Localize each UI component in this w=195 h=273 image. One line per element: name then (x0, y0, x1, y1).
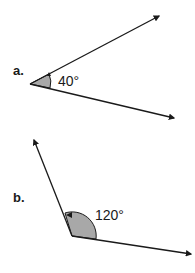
angle-b-lower-ray (72, 236, 191, 254)
angle-b-measure: 120° (95, 207, 124, 223)
angles-canvas (0, 0, 195, 273)
angle-a-measure: 40° (58, 73, 79, 89)
angle-a (30, 16, 174, 118)
part-b-label: b. (13, 190, 25, 205)
angle-diagram: a. 40° b. 120° (0, 0, 195, 273)
angle-b (34, 140, 191, 254)
part-a-label: a. (13, 63, 24, 78)
angle-b-upper-ray (34, 140, 72, 236)
angle-a-lower-ray (30, 84, 174, 118)
